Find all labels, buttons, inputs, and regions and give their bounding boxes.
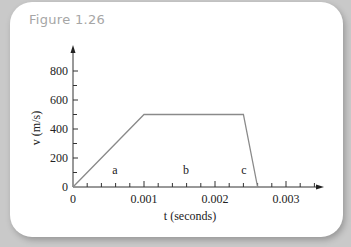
- y-ticks: [73, 71, 78, 173]
- x-tick-label-0.001: 0.001: [131, 192, 158, 206]
- y-axis-title: v (m/s): [29, 111, 43, 145]
- region-label-a: a: [112, 163, 118, 177]
- y-tick-label-800: 800: [50, 64, 68, 78]
- y-tick-label-400: 400: [50, 122, 68, 136]
- y-tick-label-0: 0: [62, 180, 68, 194]
- velocity-line: [73, 115, 258, 188]
- region-label-c: c: [241, 163, 246, 177]
- x-tick-label-0.002: 0.002: [202, 192, 229, 206]
- x-axis-arrow-icon: [316, 185, 324, 190]
- velocity-chart: 0 200 400 600 800 0 0.001 0.002 0.003 t …: [0, 0, 351, 247]
- region-label-b: b: [183, 163, 189, 177]
- y-tick-label-600: 600: [50, 93, 68, 107]
- x-tick-label-0: 0: [70, 192, 76, 206]
- x-ticks: [87, 181, 314, 187]
- x-axis-title: t (seconds): [164, 209, 216, 223]
- y-axis-arrow-icon: [71, 45, 76, 53]
- y-tick-label-200: 200: [50, 151, 68, 165]
- x-tick-label-0.003: 0.003: [273, 192, 300, 206]
